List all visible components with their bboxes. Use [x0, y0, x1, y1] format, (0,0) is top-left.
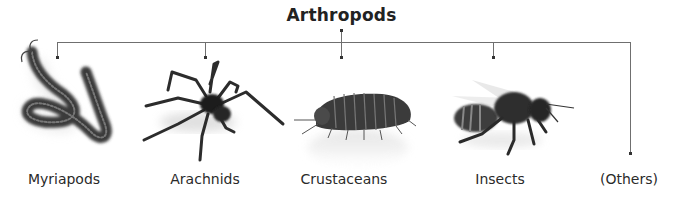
label-crustaceans: Crustaceans [301, 171, 388, 187]
dot-crustaceans [340, 56, 343, 59]
root-dot [340, 29, 343, 32]
diagram-title: Arthropods [0, 5, 675, 25]
dot-insects [492, 56, 495, 59]
woodlouse-icon [292, 90, 422, 170]
label-myriapods: Myriapods [28, 171, 100, 187]
connector-horizontal [57, 42, 631, 43]
bee-icon [442, 74, 582, 160]
spider-icon [138, 52, 288, 164]
connector-others [630, 42, 631, 153]
label-arachnids: Arachnids [170, 171, 239, 187]
connector-insects [493, 42, 494, 57]
centipede-icon [8, 36, 128, 161]
label-insects: Insects [475, 171, 524, 187]
label-others: (Others) [600, 171, 658, 187]
dot-others [629, 152, 632, 155]
connector-root-stem [341, 30, 342, 57]
